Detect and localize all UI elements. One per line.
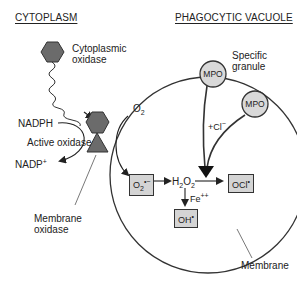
nadph-label: NADPH (18, 118, 53, 129)
o2-arrow (116, 116, 128, 175)
hypochlorite-box: OCl• (228, 174, 254, 193)
cytoplasmic-oxidase-label: Cytoplasmic oxidase (72, 43, 126, 65)
hydroxyl-box: OH• (174, 209, 198, 228)
chloride-label: +Cl− (208, 118, 226, 133)
squiggle-connector (49, 62, 80, 126)
superoxide-box: O2•− (129, 174, 154, 196)
mpo-arrow-left (203, 86, 207, 168)
mpo-label-1: MPO (201, 69, 225, 79)
o2-label: O2 (133, 103, 145, 118)
active-oxidase-hexagon (86, 112, 109, 133)
h2o2-label: H2O2 (172, 176, 195, 191)
specific-granule-label: Specific granule (232, 50, 267, 72)
nadp-label: NADP+ (15, 156, 47, 170)
cytoplasmic-oxidase-hexagon (41, 42, 64, 62)
mpo-label-2: MPO (243, 99, 267, 109)
active-oxidase-label: Active oxidase (27, 137, 91, 148)
membrane-oxidase-label: Membrane oxidase (34, 213, 82, 235)
cytoplasm-header: CYTOPLASM (15, 12, 77, 23)
iron-label: Fe++ (190, 190, 209, 205)
membrane-label: Membrane (241, 260, 289, 271)
vacuole-header: PHAGOCYTIC VACUOLE (175, 12, 293, 23)
